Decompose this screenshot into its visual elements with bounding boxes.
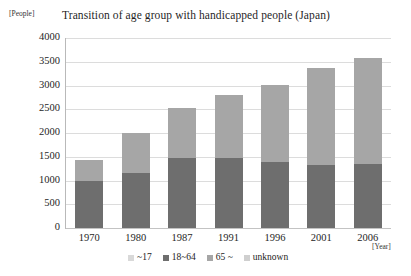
bar-segment[interactable] bbox=[168, 108, 196, 158]
legend-swatch-icon bbox=[244, 255, 250, 261]
legend-label: 18~64 bbox=[172, 253, 196, 263]
bar-segment[interactable] bbox=[122, 173, 150, 228]
bar-segment[interactable] bbox=[168, 158, 196, 228]
bar-segment[interactable] bbox=[354, 164, 382, 228]
legend-item[interactable]: ~17 bbox=[128, 253, 152, 263]
y-tick-label: 500 bbox=[16, 197, 60, 208]
bar-segment[interactable] bbox=[307, 68, 335, 165]
bar-stack[interactable] bbox=[307, 38, 335, 228]
legend-label: ~17 bbox=[137, 253, 152, 263]
legend-swatch-icon bbox=[128, 255, 134, 261]
bar-segment[interactable] bbox=[75, 160, 103, 180]
x-tick-label: 1980 bbox=[112, 232, 160, 243]
y-tick-label: 2000 bbox=[16, 126, 60, 137]
bar-segment[interactable] bbox=[307, 165, 335, 228]
bar-segment[interactable] bbox=[215, 158, 243, 228]
gridline bbox=[66, 228, 391, 229]
x-tick-label: 1987 bbox=[158, 232, 206, 243]
y-tick-label: 0 bbox=[16, 221, 60, 232]
bar-segment[interactable] bbox=[261, 162, 289, 228]
bar-segment[interactable] bbox=[122, 133, 150, 173]
legend-item[interactable]: 65 ~ bbox=[207, 253, 233, 263]
x-tick-label: 2006 bbox=[344, 232, 392, 243]
y-tick-label: 4000 bbox=[16, 31, 60, 42]
y-tick-label: 3000 bbox=[16, 79, 60, 90]
bar-stack[interactable] bbox=[122, 38, 150, 228]
bar-stack[interactable] bbox=[215, 38, 243, 228]
y-tick-label: 3500 bbox=[16, 55, 60, 66]
legend-label: unknown bbox=[253, 253, 288, 263]
y-tick-label: 1500 bbox=[16, 150, 60, 161]
x-tick-label: 1996 bbox=[251, 232, 299, 243]
chart-legend: ~1718~6465 ~unknown bbox=[128, 253, 288, 263]
bar-stack[interactable] bbox=[354, 38, 382, 228]
legend-swatch-icon bbox=[163, 255, 169, 261]
y-axis-unit-label: [People] bbox=[9, 9, 34, 18]
bar-stack[interactable] bbox=[168, 38, 196, 228]
x-axis-unit-label: [Year] bbox=[372, 242, 391, 251]
chart-title: Transition of age group with handicapped… bbox=[62, 9, 362, 21]
legend-item[interactable]: 18~64 bbox=[163, 253, 196, 263]
bar-segment[interactable] bbox=[75, 181, 103, 229]
bar-stack[interactable] bbox=[75, 38, 103, 228]
bar-segment[interactable] bbox=[354, 58, 382, 164]
x-tick-label: 1970 bbox=[65, 232, 113, 243]
bar-stack[interactable] bbox=[261, 38, 289, 228]
plot-area bbox=[66, 38, 391, 228]
legend-label: 65 ~ bbox=[216, 253, 233, 263]
bar-segment[interactable] bbox=[261, 85, 289, 162]
legend-swatch-icon bbox=[207, 255, 213, 261]
chart-container: Transition of age group with handicapped… bbox=[0, 0, 411, 276]
y-tick-label: 1000 bbox=[16, 174, 60, 185]
x-tick-label: 1991 bbox=[205, 232, 253, 243]
y-tick-label: 2500 bbox=[16, 102, 60, 113]
bar-segment[interactable] bbox=[215, 95, 243, 158]
x-tick-label: 2001 bbox=[297, 232, 345, 243]
legend-item[interactable]: unknown bbox=[244, 253, 288, 263]
